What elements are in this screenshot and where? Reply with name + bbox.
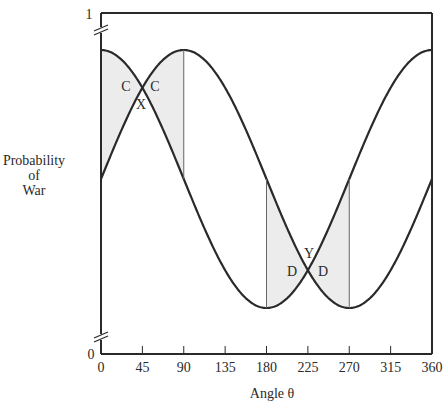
x-tick-label: 270 <box>339 360 360 375</box>
chart: 04590135180225270315360 1 0 Probability … <box>0 0 445 410</box>
x-tick-label: 225 <box>297 360 318 375</box>
x-tick-label: 90 <box>177 360 191 375</box>
y-tick-0: 0 <box>88 347 95 362</box>
x-tick-label: 360 <box>422 360 443 375</box>
x-axis-label: Angle θ <box>250 386 295 401</box>
y-axis-label-line2: of <box>28 168 40 183</box>
annotation-d-left: D <box>287 264 297 279</box>
y-axis-label-line3: War <box>23 183 46 198</box>
x-ticks: 04590135180225270315360 <box>98 346 443 375</box>
annotation-d-right: D <box>318 264 328 279</box>
x-tick-label: 45 <box>135 360 149 375</box>
y-axis-label-line1: Probability <box>3 153 65 168</box>
x-tick-label: 0 <box>98 360 105 375</box>
annotation-y: Y <box>304 246 314 261</box>
x-tick-label: 180 <box>256 360 277 375</box>
shaded-region-1 <box>101 50 184 179</box>
annotation-c-right: C <box>150 79 159 94</box>
x-tick-label: 315 <box>380 360 401 375</box>
x-tick-label: 135 <box>215 360 236 375</box>
shaded-region-2 <box>267 179 350 308</box>
annotation-x: X <box>136 97 146 112</box>
annotation-c-left: C <box>121 79 130 94</box>
y-tick-1: 1 <box>86 7 93 22</box>
